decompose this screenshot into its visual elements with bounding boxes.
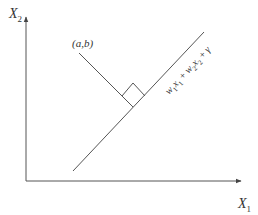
right-angle-marker [122, 83, 145, 96]
x-axis-label: X1 [237, 196, 251, 214]
hyperplane-line [73, 32, 204, 171]
point-label: (a,b) [72, 37, 93, 50]
y-axis-label: X2 [8, 6, 22, 24]
diagram-canvas: X2 X1 (a,b) w1x1 + w2x2 + γ [0, 0, 258, 215]
perpendicular-line [79, 53, 133, 107]
hyperplane-equation: w1x1 + w2x2 + γ [162, 43, 215, 98]
